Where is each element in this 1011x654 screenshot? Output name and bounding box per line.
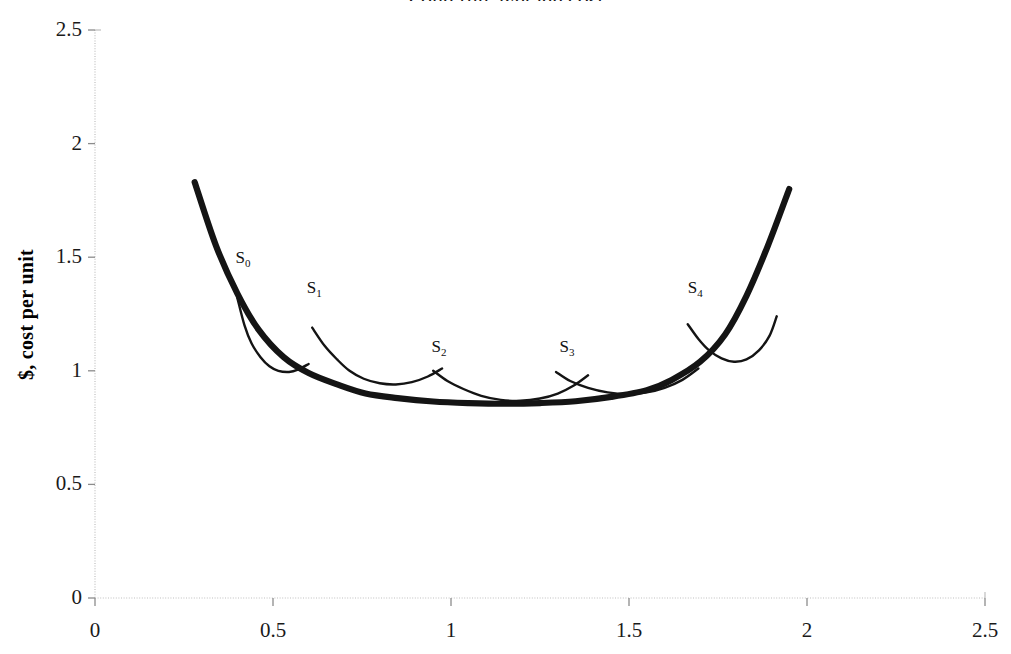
curve-label-base: S [236,248,245,267]
x-axis-tick-label-5: 2.5 [945,620,1011,641]
curve-label-s4: S4 [688,279,703,296]
chart-plot-area [0,0,1011,654]
curve-label-s3: S3 [560,338,575,355]
chart-container: Long run average cost $, cost per unit 0… [0,0,1011,654]
curve-s3 [556,369,698,394]
curve-label-subscript: 0 [245,258,251,270]
curve-s1 [312,328,442,385]
y-axis-tick-label-1: 0.5 [56,473,82,494]
axis-group [88,30,985,606]
x-axis-tick-label-2: 1 [411,620,491,641]
curve-label-subscript: 1 [316,287,322,299]
x-axis-tick-label-3: 1.5 [589,620,669,641]
curve-s2 [433,371,588,401]
x-axis-tick-label-4: 2 [767,620,847,641]
y-axis-tick-label-5: 2.5 [56,19,82,40]
curve-label-base: S [688,278,697,297]
y-axis-tick-label-2: 1 [72,360,83,381]
curve-label-subscript: 3 [569,346,575,358]
curve-label-s2: S2 [431,338,446,355]
curve-label-s0: S0 [236,249,251,266]
curve-label-base: S [307,278,316,297]
curve-label-subscript: 4 [697,287,703,299]
curve-label-subscript: 2 [441,346,447,358]
curve-label-base: S [431,337,440,356]
curve-label-s1: S1 [307,279,322,296]
x-axis-tick-label-0: 0 [55,620,135,641]
x-axis-tick-label-1: 0.5 [233,620,313,641]
y-axis-tick-label-3: 1.5 [56,246,82,267]
curve-label-base: S [560,337,569,356]
y-axis-tick-label-0: 0 [72,587,83,608]
y-axis-tick-label-4: 2 [72,133,83,154]
y-axis-title: $, cost per unit [15,248,38,379]
